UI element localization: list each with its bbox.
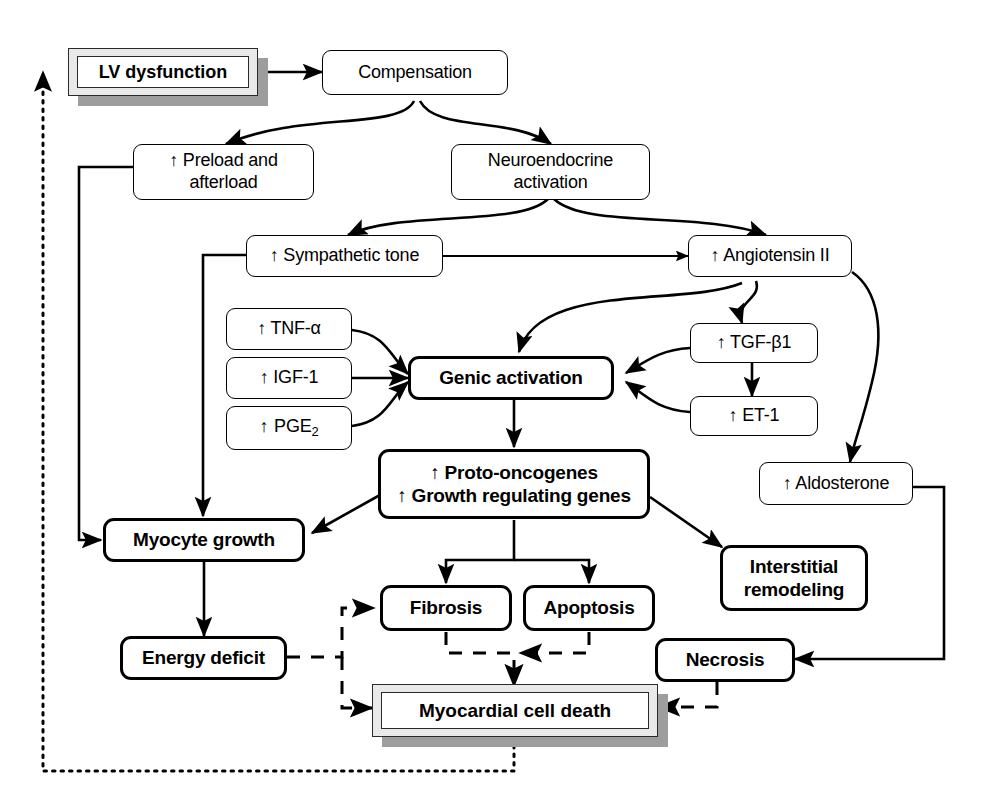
neuroendocrine-line1: Neuroendocrine [488,150,613,170]
node-apoptosis[interactable]: Apoptosis [523,585,655,631]
pge-2-label: ↑ PGE2 [227,416,351,439]
flowchart-diagram: LV dysfunction Compensation ↑ Preload an… [0,0,981,797]
proto-oncogenes-line2: ↑ Growth regulating genes [397,485,631,506]
necrosis-label: Necrosis [658,648,792,671]
node-pge-2[interactable]: ↑ PGE2 [226,406,352,450]
node-fibrosis[interactable]: Fibrosis [380,585,512,631]
proto-oncogenes-label: ↑ Proto-oncogenes ↑ Growth regulating ge… [381,461,647,507]
edge-compensation-to-preload [226,101,414,144]
angiotensin-ii-label: ↑ Angiotensin II [689,245,851,267]
node-neuroendocrine-activation[interactable]: Neuroendocrine activation [451,144,650,200]
edge-angiotensin-to-aldosterone [850,272,878,462]
edge-neuro-to-sympathetic [348,199,548,235]
node-myocyte-growth[interactable]: Myocyte growth [103,518,305,562]
edge-angiotensin-to-tgfb1 [741,281,757,323]
lv-dysfunction-label: LV dysfunction [99,62,228,83]
node-energy-deficit[interactable]: Energy deficit [120,636,287,680]
myocardial-cell-death-label: Myocardial cell death [419,700,611,722]
pge-2-arrow: ↑ [259,416,269,438]
node-preload-afterload[interactable]: ↑ Preload and afterload [133,144,314,200]
interstitial-remodeling-label: Interstitial remodeling [723,555,865,601]
node-aldosterone[interactable]: ↑ Aldosterone [759,462,913,505]
edge-apoptosis-to-celldeath [520,632,589,653]
aldosterone-label: ↑ Aldosterone [760,473,912,495]
igf-1-label: ↑ IGF-1 [227,367,351,389]
lv-dysfunction-inner: LV dysfunction [77,56,249,88]
fibrosis-label: Fibrosis [383,596,509,619]
node-genic-activation[interactable]: Genic activation [408,356,614,400]
node-tgf-beta1[interactable]: ↑ TGF-β1 [690,323,818,363]
edge-preload-to-myocyte [79,167,133,540]
pge-2-subscript: 2 [312,424,319,439]
myocyte-growth-label: Myocyte growth [106,528,302,551]
preload-afterload-line2: afterload [189,172,257,192]
node-interstitial-remodeling[interactable]: Interstitial remodeling [720,545,868,611]
edge-fibrosis-to-celldeath [446,632,514,686]
edge-energy-to-celldeath [342,657,372,708]
neuroendocrine-line2: activation [513,172,587,192]
interstitial-remodeling-line2: remodeling [744,579,844,600]
proto-oncogenes-line1: ↑ Proto-oncogenes [430,462,598,483]
preload-afterload-line1: ↑ Preload and [169,150,277,170]
sympathetic-tone-label: ↑ Sympathetic tone [247,245,442,267]
node-angiotensin-ii[interactable]: ↑ Angiotensin II [688,235,852,277]
tgf-beta1-label: ↑ TGF-β1 [691,332,817,354]
node-tnf-alpha[interactable]: ↑ TNF-α [226,308,352,350]
tnf-alpha-label: ↑ TNF-α [227,318,351,340]
node-lv-dysfunction[interactable]: LV dysfunction [68,48,258,96]
energy-deficit-label: Energy deficit [123,646,284,669]
myocardial-cell-death-inner: Myocardial cell death [381,692,649,729]
node-sympathetic-tone[interactable]: ↑ Sympathetic tone [246,235,443,277]
edge-pge2-to-genic [352,382,408,426]
compensation-label: Compensation [323,62,507,84]
edge-energy-to-fibrosis [287,608,374,657]
edge-proto-to-interstitial [650,497,722,547]
edge-proto-to-fibrosis [446,520,514,583]
node-necrosis[interactable]: Necrosis [655,638,795,682]
edge-tnf-to-genic [352,330,408,374]
edge-neuro-to-angiotensin [554,199,766,235]
preload-afterload-label: ↑ Preload and afterload [134,150,313,194]
node-proto-oncogenes[interactable]: ↑ Proto-oncogenes ↑ Growth regulating ge… [378,449,650,519]
et-1-label: ↑ ET-1 [691,405,817,427]
edge-compensation-to-neuroendocrine [420,101,551,144]
node-igf-1[interactable]: ↑ IGF-1 [226,357,352,399]
node-myocardial-cell-death[interactable]: Myocardial cell death [372,684,658,737]
apoptosis-label: Apoptosis [526,596,652,619]
edge-proto-to-apoptosis [514,560,589,583]
edge-tgfb1-to-genic [626,348,690,373]
node-compensation[interactable]: Compensation [322,50,508,95]
interstitial-remodeling-line1: Interstitial [750,556,838,577]
node-et-1[interactable]: ↑ ET-1 [690,396,818,436]
edge-et1-to-genic [626,382,690,412]
neuroendocrine-label: Neuroendocrine activation [452,150,649,194]
edge-proto-to-myocyte [312,495,380,533]
genic-activation-label: Genic activation [411,366,611,389]
